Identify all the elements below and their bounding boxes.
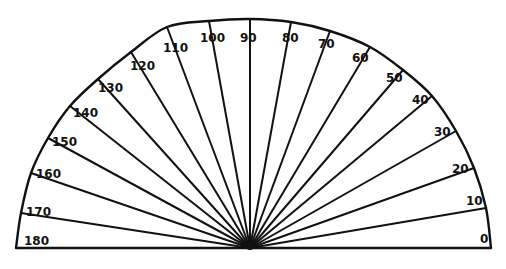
angle-label-60: 60 [352,51,369,65]
angle-label-80: 80 [282,31,299,45]
angle-line-150 [48,138,250,248]
center-point [246,242,254,250]
angle-label-90: 90 [240,31,257,45]
angle-lines [21,19,486,248]
angle-label-20: 20 [452,162,469,176]
angle-label-180: 180 [24,234,49,248]
angle-label-10: 10 [466,194,483,208]
angle-label-110: 110 [163,41,188,55]
angle-label-170: 170 [26,205,51,219]
angle-label-160: 160 [36,167,61,181]
angle-label-30: 30 [434,125,451,139]
angle-label-50: 50 [386,71,403,85]
angle-label-100: 100 [200,31,225,45]
angle-label-130: 130 [98,81,123,95]
angle-label-40: 40 [412,93,429,107]
angle-label-120: 120 [130,59,155,73]
angle-label-70: 70 [318,37,335,51]
angle-label-150: 150 [52,135,77,149]
angle-label-0: 0 [480,232,488,246]
protractor-diagram: 0102030405060708090100110120130140150160… [0,0,506,269]
protractor-arc [16,19,491,248]
angle-line-170 [21,213,250,248]
angle-label-140: 140 [73,106,98,120]
